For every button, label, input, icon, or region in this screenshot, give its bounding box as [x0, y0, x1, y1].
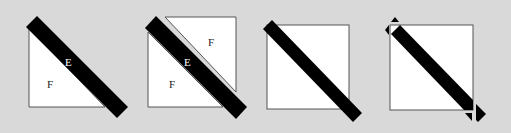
label-f: F [47, 78, 53, 90]
panel-2: F E F [145, 16, 247, 119]
label-e: E [65, 56, 72, 68]
corner-marker-top [391, 17, 399, 22]
label-f-lower: F [169, 78, 175, 90]
corner-marker-left [385, 25, 389, 35]
corner-marker-bottom [465, 113, 472, 121]
diagram-canvas: E F F E F [0, 0, 511, 133]
panel-1: E F [26, 16, 128, 118]
corner-marker-right [476, 104, 486, 122]
label-f-upper: F [208, 36, 214, 48]
panel-4 [385, 17, 486, 122]
label-e: E [184, 56, 191, 68]
panel-3 [263, 20, 362, 122]
